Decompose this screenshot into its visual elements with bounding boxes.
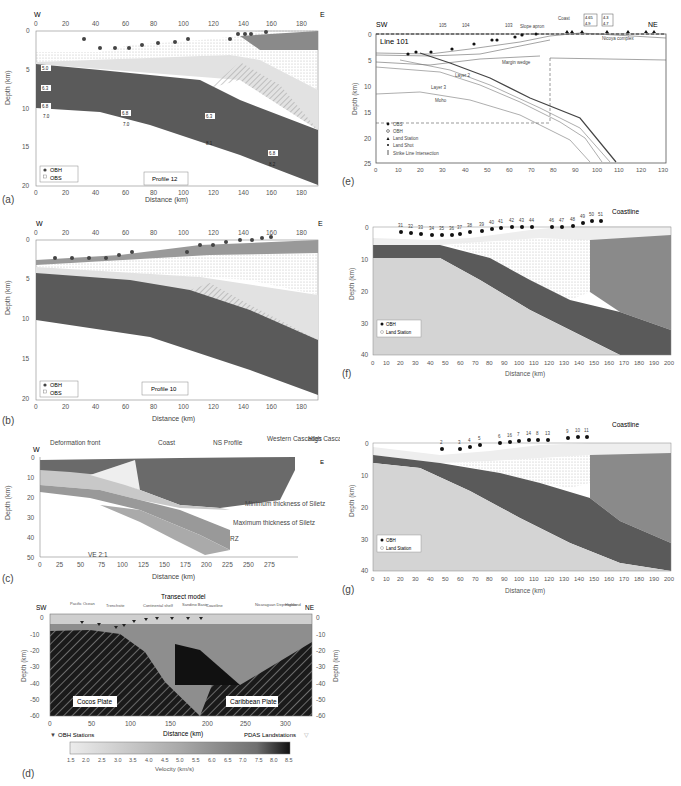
svg-text:80: 80 (550, 167, 557, 173)
svg-text:6.8: 6.8 (42, 104, 49, 109)
svg-text:40: 40 (361, 567, 369, 574)
ylabel: Depth (km) (4, 70, 12, 105)
svg-text:7.0: 7.0 (123, 122, 130, 127)
svg-text:0: 0 (48, 720, 52, 727)
svg-text:0: 0 (31, 454, 35, 461)
svg-text:80: 80 (150, 403, 158, 410)
svg-text:9: 9 (566, 429, 569, 434)
colorbar-label: Velocity (km/s) (155, 766, 194, 772)
panel-label-g: (g) (342, 584, 354, 595)
svg-text:120: 120 (208, 20, 219, 27)
svg-text:3.5: 3.5 (129, 757, 137, 763)
svg-text:-20: -20 (30, 647, 40, 654)
svg-text:25: 25 (56, 561, 64, 568)
panel-label-c: (c) (2, 573, 14, 584)
svg-text:0: 0 (26, 236, 30, 243)
x-ticks: 0 50 100 150 200 250 300 (48, 720, 291, 727)
panel-f: Coastline 31 32 33 34 35 36 37 38 39 40 … (340, 200, 681, 435)
svg-text:50: 50 (27, 554, 35, 561)
svg-text:5: 5 (368, 57, 372, 64)
svg-text:104: 104 (462, 23, 470, 28)
x-ticks-bottom: 0 20 40 60 80 100 120 140 160 180 (34, 403, 307, 410)
svg-text:150: 150 (589, 360, 600, 366)
svg-text:80: 80 (486, 360, 493, 366)
svg-text:40: 40 (361, 351, 369, 358)
svg-text:90: 90 (572, 167, 579, 173)
svg-text:High Cascades: High Cascades (308, 435, 340, 443)
svg-text:34: 34 (429, 226, 435, 231)
coastline-label: Coastline (612, 208, 639, 215)
line-101-plot: SW NE Line 101 105 104 103 Slope apron C… (340, 0, 681, 200)
coastline-label: Coastline (612, 421, 639, 428)
svg-text:5.0: 5.0 (176, 757, 184, 763)
svg-text:30: 30 (361, 320, 369, 327)
svg-text:OBH: OBH (393, 129, 403, 134)
xlabel-c: Distance (km) (152, 573, 195, 580)
svg-text:36: 36 (449, 226, 455, 231)
legend-obs: OBS (50, 390, 62, 396)
svg-text:225: 225 (222, 561, 233, 568)
ne-label: NE (305, 604, 315, 611)
svg-text:35: 35 (439, 226, 445, 231)
sw-label: SW (36, 604, 47, 611)
svg-text:75: 75 (98, 561, 106, 568)
svg-text:7.0: 7.0 (239, 757, 247, 763)
svg-text:90: 90 (501, 360, 508, 366)
svg-text:20: 20 (22, 395, 30, 402)
svg-text:0: 0 (365, 440, 369, 447)
svg-text:10: 10 (383, 360, 390, 366)
svg-text:190: 190 (649, 360, 660, 366)
panel-g: Coastline 2 3 4 5 6 16 7 14 8 13 9 10 11… (340, 413, 681, 643)
svg-text:80: 80 (150, 229, 158, 236)
svg-text:160: 160 (266, 229, 277, 236)
x-ticks-bottom: 0 20 40 60 80 100 120 140 160 180 (34, 189, 307, 196)
svg-text:RZ: RZ (230, 535, 239, 542)
svg-text:30: 30 (361, 536, 369, 543)
svg-text:-60: -60 (30, 712, 40, 719)
svg-text:190: 190 (649, 576, 660, 582)
svg-text:150: 150 (589, 576, 600, 582)
y-ticks: 0 10 20 30 40 (361, 440, 369, 574)
svg-text:70: 70 (528, 167, 535, 173)
svg-text:130: 130 (559, 360, 570, 366)
svg-text:0: 0 (34, 189, 38, 196)
profile-title: Profile 10 (151, 386, 177, 392)
svg-text:33: 33 (418, 225, 424, 230)
svg-text:6.5: 6.5 (224, 757, 232, 763)
y-ticks: 0 10 20 30 40 (361, 224, 369, 358)
svg-text:120: 120 (544, 576, 555, 582)
svg-text:20: 20 (417, 167, 424, 173)
xlabel-b: Distance (km) (152, 415, 195, 422)
legend-obh: OBH (386, 538, 396, 543)
svg-text:20: 20 (364, 135, 372, 142)
svg-text:125: 125 (138, 561, 149, 568)
panel-b: Depth (km) W E 0 20 40 60 80 100 120 140… (0, 215, 340, 425)
ylabel: Depth (km) (4, 280, 12, 315)
svg-text:15: 15 (22, 143, 30, 150)
svg-text:103: 103 (505, 23, 513, 28)
svg-text:25: 25 (364, 160, 372, 167)
svg-text:180: 180 (296, 20, 307, 27)
svg-text:175: 175 (180, 561, 191, 568)
svg-text:0: 0 (371, 360, 375, 366)
svg-text:60: 60 (122, 229, 130, 236)
svg-text:200: 200 (201, 561, 212, 568)
svg-text:6: 6 (498, 434, 501, 439)
sw-label: SW (376, 21, 388, 28)
svg-text:6.3: 6.3 (206, 114, 213, 119)
svg-text:39: 39 (479, 222, 485, 227)
svg-text:70: 70 (472, 576, 479, 582)
panel-label-a: (a) (2, 194, 14, 205)
ylabel: Depth (km) (4, 485, 12, 520)
svg-text:10: 10 (361, 256, 369, 263)
svg-text:-30: -30 (30, 663, 40, 670)
y-ticks: 0 10 20 30 40 50 (27, 454, 35, 561)
svg-text:40: 40 (92, 189, 100, 196)
svg-text:7: 7 (517, 432, 520, 437)
svg-text:0: 0 (34, 20, 38, 27)
y-ticks: 0 5 10 15 20 (22, 236, 30, 402)
svg-text:80: 80 (150, 189, 158, 196)
svg-text:20: 20 (62, 229, 70, 236)
xlabel-f: Distance (km) (505, 370, 545, 378)
svg-text:140: 140 (238, 20, 249, 27)
